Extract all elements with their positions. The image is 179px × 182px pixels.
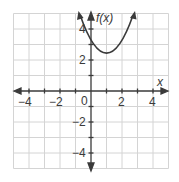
y-tick-label-neg2: −2 [72, 115, 86, 129]
y-axis-down-arrow-icon [88, 163, 94, 171]
x-axis-left-arrow-icon [14, 88, 21, 94]
origin-label: 0 [81, 94, 88, 108]
y-axis-label: f(x) [96, 11, 113, 25]
curve-left-arrow-icon [77, 11, 84, 20]
y-tick-label-2: 2 [79, 53, 86, 67]
x-tick-label-neg2: −2 [49, 95, 63, 109]
x-tick-label-4: 4 [149, 95, 156, 109]
coordinate-plane: f(x) x 0 −4 −2 2 4 4 2 −2 −4 [0, 0, 179, 182]
x-tick-label-2: 2 [118, 95, 125, 109]
y-tick-label-neg4: −4 [72, 146, 86, 160]
curve-right-arrow-icon [130, 11, 137, 20]
x-tick-label-neg4: −4 [18, 95, 32, 109]
y-tick-label-4: 4 [79, 22, 86, 36]
x-axis-label: x [156, 75, 164, 89]
